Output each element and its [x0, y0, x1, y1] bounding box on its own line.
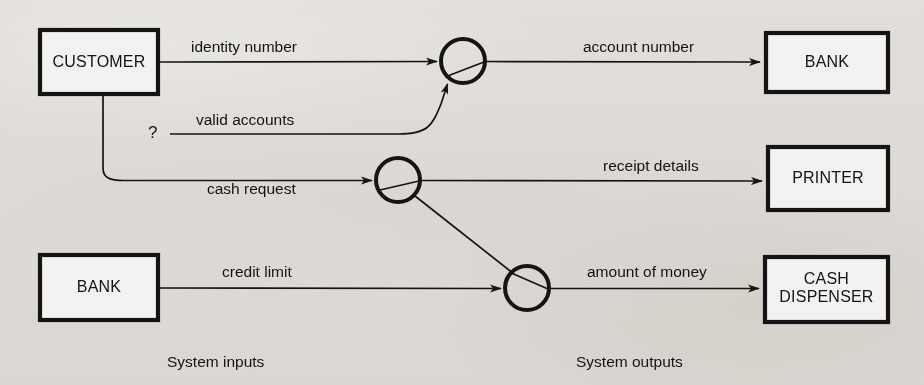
entity-bank-input-box[interactable]	[40, 255, 158, 320]
entity-cash-dispenser-rect[interactable]	[765, 257, 888, 322]
process-2-inner-stroke	[380, 181, 419, 190]
entity-bank-input-rect[interactable]	[40, 255, 158, 320]
entity-bank-output-box[interactable]	[766, 33, 888, 92]
flow-line-process2-to-process3	[413, 194, 515, 274]
flow-line-valid-accounts	[170, 84, 448, 134]
diagram-page: CUSTOMER BANK BANK PRINTER CASH DISPENSE…	[0, 0, 924, 385]
flow-line-identity-number	[158, 62, 437, 63]
entity-customer-rect[interactable]	[40, 30, 158, 94]
flow-line-cash-request	[103, 94, 372, 181]
entity-printer-box[interactable]	[768, 147, 888, 210]
flow-line-credit-limit	[158, 288, 501, 289]
entity-cash-dispenser-box[interactable]	[765, 257, 888, 322]
entity-printer-rect[interactable]	[768, 147, 888, 210]
entity-customer-box[interactable]	[40, 30, 158, 94]
flow-line-receipt-details	[420, 181, 762, 182]
data-flow-diagram-canvas	[0, 0, 924, 385]
process-circle-2[interactable]	[376, 158, 420, 202]
flow-line-account-number	[485, 62, 760, 63]
entity-bank-output-rect[interactable]	[766, 33, 888, 92]
